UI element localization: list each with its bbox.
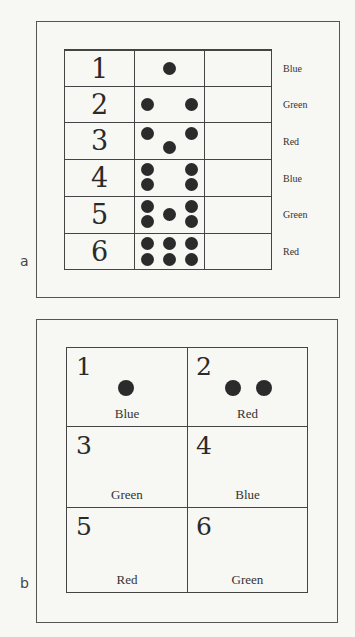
cell-color-label: Blue xyxy=(188,488,307,501)
dot-icon xyxy=(225,380,241,396)
dot-icon xyxy=(141,253,154,266)
dot-icon xyxy=(163,208,176,221)
panel-b-grid: 1 Blue 2 Red 3 Green 4 Blue 5 Red 6 Gree… xyxy=(66,347,308,593)
cell-color-label: Green xyxy=(67,488,187,501)
panel-b-cell-6: 6 Green xyxy=(188,508,307,592)
dot-icon xyxy=(185,215,198,228)
row-2-color-label: Green xyxy=(283,100,307,110)
dot-icon xyxy=(185,98,198,111)
cell-number: 6 xyxy=(196,514,212,539)
dot-icon xyxy=(141,127,154,140)
dot-icon xyxy=(185,253,198,266)
dot-icon xyxy=(163,237,176,250)
row-1-color-label: Blue xyxy=(283,64,302,74)
row-number: 5 xyxy=(65,197,134,233)
panel-a-row-6: 6 xyxy=(65,233,271,270)
dot-pattern-3 xyxy=(135,123,204,159)
dot-icon xyxy=(185,163,198,176)
row-number: 4 xyxy=(65,160,134,196)
dot-pattern-5 xyxy=(135,197,204,233)
panel-a-row-2: 2 xyxy=(65,86,271,123)
row-6-color-label: Red xyxy=(283,247,299,257)
row-3-color-label: Red xyxy=(283,137,299,147)
row-4-color-label: Blue xyxy=(283,174,302,184)
dot-icon xyxy=(185,127,198,140)
panel-a-row-3: 3 xyxy=(65,122,271,159)
panel-b-cell-5: 5 Red xyxy=(67,508,187,592)
dot-pattern-6 xyxy=(135,234,204,270)
row-number: 1 xyxy=(65,51,134,87)
cell-number: 4 xyxy=(196,433,212,458)
row-number: 6 xyxy=(65,234,134,270)
panel-b-cell-3: 3 Green xyxy=(67,427,187,507)
cell-color-label: Green xyxy=(188,573,307,586)
panel-a-grid: 1 2 3 4 5 xyxy=(64,49,272,270)
panel-a-row-4: 4 xyxy=(65,159,271,196)
panel-a-row-1: 1 xyxy=(65,50,271,87)
dot-icon xyxy=(141,200,154,213)
cell-color-label: Blue xyxy=(67,407,187,420)
dot-icon xyxy=(185,237,198,250)
dot-pattern-2 xyxy=(135,87,204,123)
cell-number: 2 xyxy=(196,354,212,379)
dot-icon xyxy=(185,178,198,191)
dot-icon xyxy=(163,62,176,75)
row-number: 3 xyxy=(65,123,134,159)
dot-pattern-4 xyxy=(135,160,204,196)
dot-icon xyxy=(141,215,154,228)
dot-icon xyxy=(141,237,154,250)
panel-a-row-5: 5 xyxy=(65,196,271,233)
row-number: 2 xyxy=(65,87,134,123)
panel-a-letter: a xyxy=(20,254,29,268)
dot-icon xyxy=(163,253,176,266)
dot-icon xyxy=(141,98,154,111)
dot-icon xyxy=(163,141,176,154)
cell-color-label: Red xyxy=(67,573,187,586)
cell-number: 3 xyxy=(76,433,92,458)
cell-number: 1 xyxy=(76,354,92,379)
dot-icon xyxy=(141,163,154,176)
panel-b-cell-1: 1 Blue xyxy=(67,348,187,426)
cell-number: 5 xyxy=(76,514,92,539)
dot-pattern-1 xyxy=(135,51,204,87)
dot-icon xyxy=(118,380,134,396)
dot-icon xyxy=(141,178,154,191)
panel-b-letter: b xyxy=(20,576,29,590)
panel-b-cell-2: 2 Red xyxy=(188,348,307,426)
row-5-color-label: Green xyxy=(283,210,307,220)
dot-icon xyxy=(256,380,272,396)
cell-color-label: Red xyxy=(188,407,307,420)
panel-b-cell-4: 4 Blue xyxy=(188,427,307,507)
dot-icon xyxy=(185,200,198,213)
